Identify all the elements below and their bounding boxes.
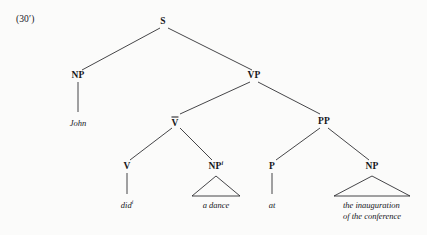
- node-np-prep-object-label: NP: [365, 161, 378, 171]
- edge-vbar-npobj: [180, 128, 212, 160]
- triangle-layer: [192, 176, 410, 196]
- node-p: P: [269, 162, 275, 172]
- node-vp: VP: [247, 71, 260, 81]
- leaf-inauguration: the inauguration of the conference: [343, 200, 401, 221]
- leaf-john-text: John: [70, 118, 87, 128]
- edge-vp-vbar: [180, 82, 250, 114]
- node-v-bar: V: [171, 117, 178, 128]
- leaf-inauguration-line1: the inauguration: [343, 200, 401, 211]
- leaf-at-text: at: [269, 200, 276, 210]
- leaf-at: at: [269, 200, 276, 211]
- node-v: V: [123, 162, 130, 172]
- triangle-inauguration: [334, 176, 410, 196]
- edge-s-np: [82, 28, 160, 70]
- node-np-subject-label: NP: [71, 70, 84, 80]
- edge-pp-nppobj: [328, 128, 369, 160]
- edge-vp-pp: [258, 82, 320, 114]
- node-v-bar-label: V: [171, 117, 178, 127]
- leaf-a-dance-text: a dance: [203, 200, 230, 210]
- edge-pp-p: [276, 128, 320, 160]
- leaf-inauguration-line2: of the conference: [343, 211, 401, 222]
- edge-s-vp: [168, 28, 252, 70]
- node-np-object: NPi: [209, 162, 224, 172]
- node-pp-label: PP: [318, 116, 330, 126]
- edge-layer: [78, 28, 369, 194]
- edge-vbar-v: [130, 128, 172, 160]
- node-vp-label: VP: [247, 70, 260, 80]
- node-np-object-index: i: [222, 160, 224, 166]
- syntax-tree-figure: (30′) S NP VP V PP V NPi P NP John didi …: [0, 0, 427, 235]
- leaf-john: John: [70, 118, 87, 129]
- triangle-a-dance: [192, 176, 240, 196]
- node-p-label: P: [269, 161, 275, 171]
- node-v-label: V: [123, 161, 130, 171]
- leaf-did-text: did: [121, 200, 132, 210]
- node-s-label: S: [160, 16, 165, 26]
- leaf-did-index: i: [132, 199, 134, 205]
- leaf-a-dance: a dance: [203, 200, 230, 211]
- node-np-subject: NP: [71, 71, 84, 81]
- node-s: S: [160, 17, 165, 27]
- node-np-prep-object: NP: [365, 162, 378, 172]
- leaf-did: didi: [121, 200, 133, 211]
- node-pp: PP: [318, 117, 330, 127]
- node-np-object-label: NP: [209, 161, 222, 171]
